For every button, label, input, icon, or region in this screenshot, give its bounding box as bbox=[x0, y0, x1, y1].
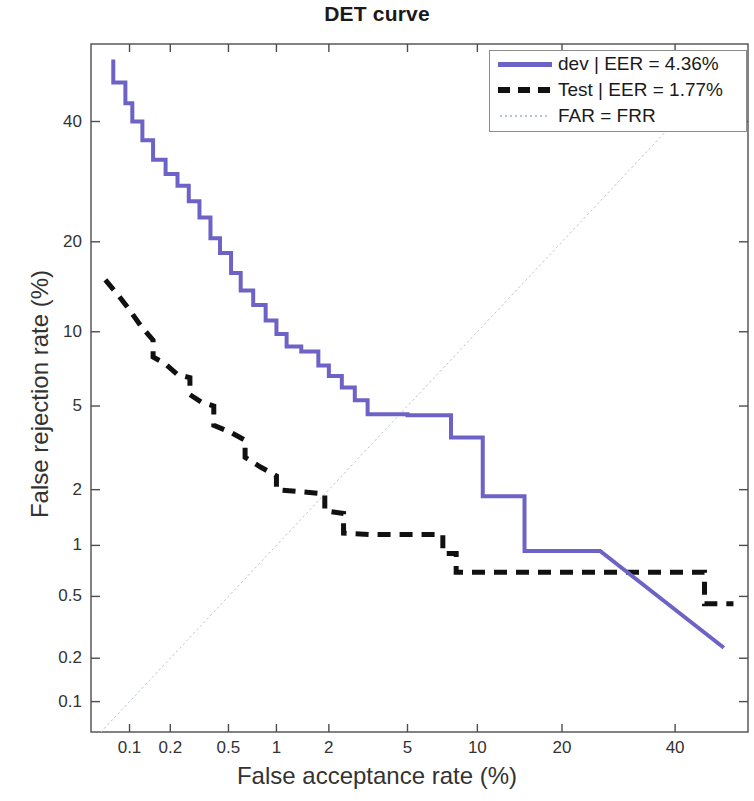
det-curve-figure: DET curve 0.10.20.5125102040 4020105210.… bbox=[0, 0, 754, 801]
axes-frame bbox=[91, 44, 748, 732]
dashed-line-sample bbox=[496, 83, 554, 97]
x-tick-label: 2 bbox=[324, 738, 333, 758]
y-tick-label: 0.2 bbox=[58, 648, 82, 668]
y-tick-label: 5 bbox=[73, 396, 82, 416]
legend: dev | EER = 4.36% Test | EER = 1.77% FAR… bbox=[489, 50, 747, 132]
legend-label-dev: dev | EER = 4.36% bbox=[558, 53, 719, 75]
y-tick-label: 10 bbox=[63, 322, 82, 342]
dotted-line-sample bbox=[496, 109, 554, 123]
series-line-test bbox=[105, 280, 733, 604]
legend-entry-dev: dev | EER = 4.36% bbox=[490, 51, 746, 77]
y-axis-label: False rejection rate (%) bbox=[26, 164, 54, 624]
x-tick-label: 1 bbox=[272, 738, 281, 758]
legend-entry-diagonal: FAR = FRR bbox=[490, 103, 746, 129]
legend-label-diagonal: FAR = FRR bbox=[558, 105, 656, 127]
x-tick-label: 5 bbox=[403, 738, 412, 758]
x-axis-label: False acceptance rate (%) bbox=[0, 762, 754, 790]
y-tick-label: 2 bbox=[73, 480, 82, 500]
x-tick-label: 40 bbox=[666, 738, 685, 758]
legend-label-test: Test | EER = 1.77% bbox=[558, 79, 723, 101]
y-tick-label: 40 bbox=[63, 112, 82, 132]
y-tick-label: 0.5 bbox=[58, 586, 82, 606]
tick-marks bbox=[91, 44, 748, 732]
y-tick-label: 1 bbox=[73, 535, 82, 555]
data-series bbox=[101, 59, 734, 732]
x-tick-label: 20 bbox=[553, 738, 572, 758]
y-tick-label: 20 bbox=[63, 232, 82, 252]
legend-entry-test: Test | EER = 1.77% bbox=[490, 77, 746, 103]
x-tick-label: 0.2 bbox=[158, 738, 182, 758]
x-tick-label: 0.1 bbox=[118, 738, 142, 758]
x-tick-label: 10 bbox=[468, 738, 487, 758]
y-tick-label: 0.1 bbox=[58, 692, 82, 712]
x-tick-label: 0.5 bbox=[217, 738, 241, 758]
series-line-dev bbox=[113, 59, 724, 647]
solid-line-sample bbox=[496, 57, 554, 71]
